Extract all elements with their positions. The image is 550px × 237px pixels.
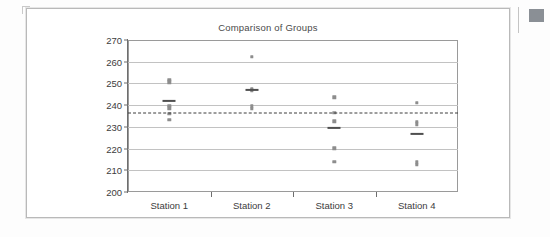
y-axis-label: 260 [106, 56, 122, 67]
y-axis-tick [124, 83, 128, 84]
x-axis-label-3: Station 3 [316, 200, 354, 211]
plot-area: 200210220230240250260270 Station 1Statio… [128, 40, 458, 192]
group-mean-marker [410, 133, 423, 135]
group-mean-marker [245, 89, 258, 91]
y-axis-label: 270 [106, 35, 122, 46]
y-axis-label: 220 [106, 143, 122, 154]
x-axis-label-4: Station 4 [398, 200, 436, 211]
screenshot-root: Comparison of Groups 2002102202302402502… [0, 0, 550, 237]
y-axis-tick [124, 40, 128, 41]
y-axis-label: 210 [106, 165, 122, 176]
group-mean-marker [328, 127, 341, 129]
x-axis-label-2: Station 2 [233, 200, 271, 211]
x-axis-label-1: Station 1 [151, 200, 189, 211]
page-edge-rule [518, 7, 519, 33]
gridline [128, 127, 458, 128]
y-axis-tick [124, 105, 128, 106]
group-mean-marker [163, 100, 176, 102]
y-axis-tick [124, 148, 128, 149]
x-axis-tick [293, 192, 294, 197]
y-axis-tick [124, 192, 128, 193]
y-axis-tick [124, 126, 128, 127]
grand-mean-line [128, 112, 458, 113]
x-axis-tick [376, 192, 377, 197]
y-axis-tick [124, 61, 128, 62]
y-axis-label: 250 [106, 78, 122, 89]
y-axis-label: 240 [106, 100, 122, 111]
page-edge-marker [529, 9, 544, 22]
gridline [128, 83, 458, 84]
gridline [128, 105, 458, 106]
gridline [128, 149, 458, 150]
y-axis-label: 200 [106, 187, 122, 198]
x-axis-tick [211, 192, 212, 197]
plot-frame [128, 40, 458, 192]
y-axis-label: 230 [106, 121, 122, 132]
chart-title: Comparison of Groups [27, 22, 509, 33]
y-axis-tick [124, 170, 128, 171]
gridline [128, 170, 458, 171]
gridline [128, 62, 458, 63]
